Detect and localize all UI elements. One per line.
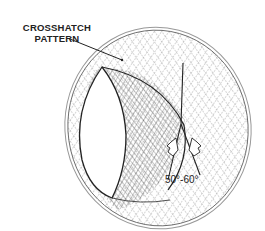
angle-label: 50°-60° <box>165 174 199 185</box>
cylinder-bore-diagram <box>0 0 265 231</box>
